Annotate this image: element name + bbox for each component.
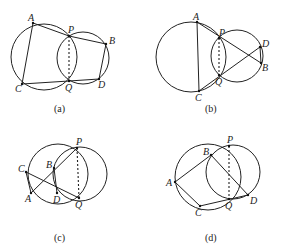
point-label-p: P [75, 136, 82, 147]
point-label-d: D [249, 195, 258, 206]
point-a [174, 181, 176, 183]
point-p [68, 35, 70, 37]
point-c [25, 171, 27, 173]
point-label-b: B [262, 62, 268, 73]
segment-cq [22, 81, 69, 84]
figure-d: (d) PBACQD [165, 134, 260, 244]
segment-bp [69, 36, 106, 44]
point-label-c: C [15, 83, 22, 94]
caption-a: (a) [54, 103, 65, 115]
point-label-q: Q [215, 76, 223, 87]
circle-2 [57, 32, 109, 84]
caption-b: (b) [205, 103, 217, 115]
point-label-c: C [18, 163, 25, 174]
point-label-a: A [27, 12, 35, 23]
point-label-p: P [218, 27, 225, 38]
segment-ac [22, 23, 33, 84]
segment-db [99, 44, 106, 79]
circle-2 [53, 147, 107, 201]
point-label-c: C [195, 207, 202, 218]
segment-ab [197, 22, 261, 63]
point-d [259, 46, 261, 48]
figure-a: (a) APBDQC [11, 12, 115, 115]
point-label-b: B [203, 146, 209, 157]
point-label-a: A [192, 11, 200, 22]
geometry-figure-canvas: (a) APBDQC (b) APDBQC (c) PBCADQ (d) PBA… [0, 0, 282, 252]
segment-db [260, 47, 261, 63]
point-b [210, 154, 212, 156]
segment-cd [199, 47, 260, 91]
circle-2 [206, 145, 260, 199]
caption-d: (d) [205, 232, 217, 244]
figure-b: (b) APDBQC [156, 11, 270, 115]
point-label-q: Q [65, 82, 73, 93]
point-label-p: P [226, 134, 233, 145]
caption-c: (c) [54, 232, 65, 244]
segment-ac [197, 22, 199, 91]
point-p [228, 145, 230, 147]
point-label-a: A [24, 193, 32, 204]
point-label-d: D [261, 38, 270, 49]
point-d [247, 194, 249, 196]
point-b [53, 167, 55, 169]
figure-c: (c) PBCADQ [18, 136, 107, 244]
point-label-p: P [67, 24, 74, 35]
point-p [76, 147, 78, 149]
point-label-b: B [46, 159, 52, 170]
dashed-common-chord [77, 148, 79, 198]
segment-qd [69, 79, 99, 81]
segment-bd [54, 168, 57, 193]
point-label-c: C [195, 92, 202, 103]
point-label-q: Q [75, 199, 83, 210]
point-label-q: Q [225, 200, 233, 211]
point-label-a: A [165, 177, 173, 188]
segment-cd [200, 195, 248, 206]
point-b [105, 43, 107, 45]
point-label-b: B [109, 35, 115, 46]
point-label-d: D [97, 79, 106, 90]
point-label-d: D [52, 194, 61, 205]
